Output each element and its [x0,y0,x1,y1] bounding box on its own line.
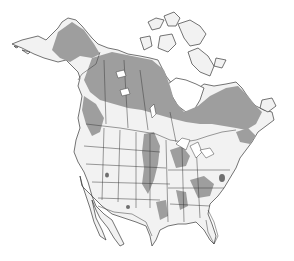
north-america-map-svg [0,0,294,261]
range-map [0,0,294,261]
